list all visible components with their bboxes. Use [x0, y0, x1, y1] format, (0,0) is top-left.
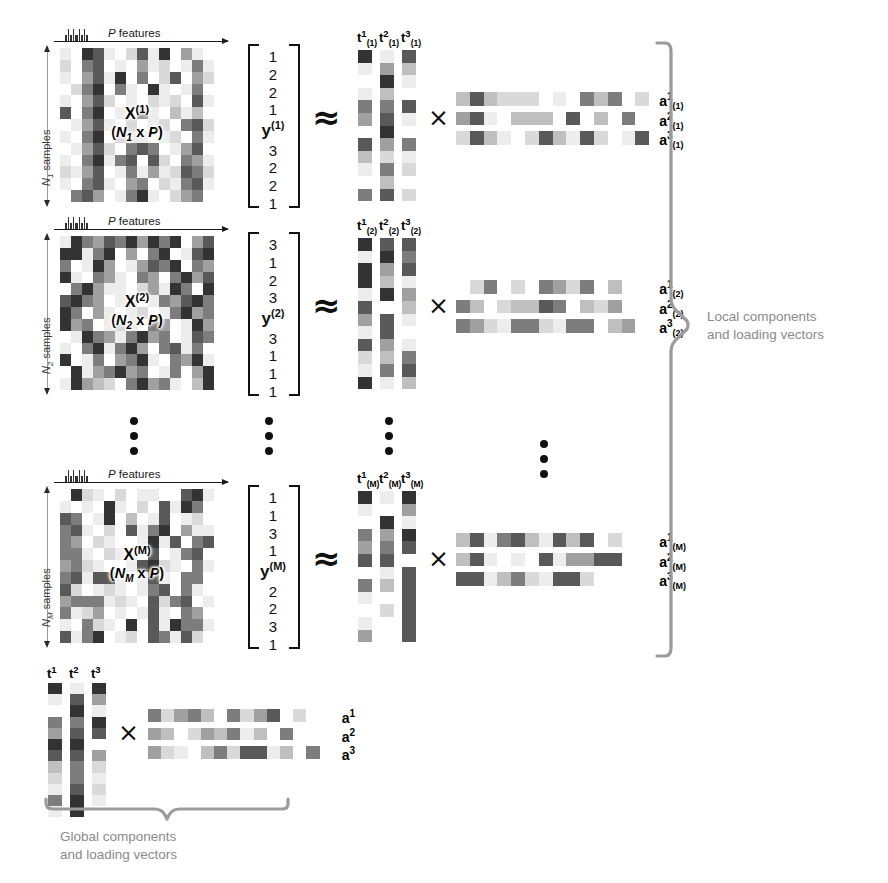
heatmap-cell — [104, 354, 115, 366]
heatmap-cell — [470, 280, 484, 294]
heatmap-cell — [137, 248, 148, 260]
heatmap-cell — [497, 280, 511, 294]
heatmap-cell — [539, 572, 553, 586]
heatmap-cell — [192, 107, 203, 119]
heatmap-cell — [192, 631, 203, 643]
block-2-y-bracket-right — [289, 232, 300, 396]
block-1-t-label-2: t2(1) — [379, 28, 399, 48]
block-1-t-column-2 — [380, 50, 394, 201]
block-m-t-column-1 — [358, 491, 372, 642]
heatmap-cell — [566, 319, 580, 333]
heatmap-cell — [402, 529, 416, 542]
heatmap-cell — [71, 607, 82, 619]
heatmap-cell — [115, 260, 126, 272]
ellipsis-dot — [540, 455, 548, 463]
heatmap-cell — [566, 553, 580, 567]
heatmap-cell — [70, 773, 84, 784]
heatmap-cell — [402, 301, 416, 314]
comb-tick — [84, 470, 86, 482]
heatmap-cell — [82, 343, 93, 355]
heatmap-cell — [539, 92, 553, 106]
heatmap-cell — [104, 489, 115, 501]
heatmap-cell — [115, 178, 126, 190]
heatmap-cell — [60, 48, 71, 60]
heatmap-cell — [566, 572, 580, 586]
heatmap-cell — [456, 553, 470, 567]
heatmap-cell — [71, 307, 82, 319]
global-a-row-2 — [148, 728, 333, 741]
heatmap-cell — [456, 533, 470, 547]
heatmap-cell — [82, 166, 93, 178]
ellipsis-y-vectors — [265, 417, 273, 455]
block-1-features-label: P features — [108, 27, 160, 39]
heatmap-cell — [192, 319, 203, 331]
heatmap-cell — [137, 143, 148, 155]
heatmap-cell — [320, 728, 333, 741]
heatmap-cell — [511, 319, 525, 333]
heatmap-cell — [159, 72, 170, 84]
heatmap-cell — [192, 248, 203, 260]
block-m-features-arrow — [54, 482, 228, 483]
block-m-samples-label: NM samples — [40, 568, 55, 627]
heatmap-cell — [525, 112, 539, 126]
heatmap-cell — [484, 533, 498, 547]
heatmap-cell — [71, 378, 82, 390]
heatmap-cell — [148, 178, 159, 190]
heatmap-cell — [148, 143, 159, 155]
heatmap-cell — [358, 326, 372, 339]
heatmap-cell — [181, 331, 192, 343]
heatmap-cell — [170, 596, 181, 608]
heatmap-cell — [553, 319, 567, 333]
heatmap-cell — [115, 596, 126, 608]
block-m-x-label: X(M)(NM x P) — [90, 544, 184, 585]
heatmap-cell — [553, 112, 567, 126]
heatmap-cell — [93, 619, 104, 631]
heatmap-cell — [104, 60, 115, 72]
heatmap-cell — [60, 84, 71, 96]
heatmap-cell — [137, 584, 148, 596]
heatmap-cell — [71, 596, 82, 608]
heatmap-cell — [60, 155, 71, 167]
heatmap-cell — [358, 604, 372, 617]
global-times-sign: × — [118, 720, 139, 745]
heatmap-cell — [93, 489, 104, 501]
block-1-y-bracket-left — [248, 44, 259, 208]
heatmap-cell — [358, 592, 372, 605]
heatmap-cell — [402, 189, 416, 202]
heatmap-cell — [635, 131, 649, 145]
heatmap-cell — [203, 378, 214, 390]
heatmap-cell — [203, 560, 214, 572]
heatmap-cell — [203, 619, 214, 631]
heatmap-cell — [104, 166, 115, 178]
heatmap-cell — [104, 501, 115, 513]
heatmap-cell — [539, 112, 553, 126]
block-2-y-value: 1 — [269, 347, 277, 364]
global-a-label-2: a2 — [342, 727, 355, 745]
heatmap-cell — [192, 572, 203, 584]
heatmap-cell — [192, 272, 203, 284]
heatmap-cell — [115, 331, 126, 343]
heatmap-cell — [104, 236, 115, 248]
heatmap-cell — [358, 541, 372, 554]
heatmap-cell — [104, 631, 115, 643]
heatmap-cell — [82, 501, 93, 513]
heatmap-cell — [622, 319, 636, 333]
heatmap-cell — [71, 295, 82, 307]
heatmap-cell — [93, 60, 104, 72]
heatmap-cell — [402, 554, 416, 567]
heatmap-cell — [240, 746, 253, 759]
heatmap-cell — [203, 119, 214, 131]
heatmap-cell — [203, 501, 214, 513]
heatmap-cell — [71, 548, 82, 560]
heatmap-cell — [148, 84, 159, 96]
heatmap-cell — [104, 366, 115, 378]
heatmap-cell — [126, 489, 137, 501]
heatmap-cell — [227, 709, 240, 722]
heatmap-cell — [148, 60, 159, 72]
block-1-y-value: 2 — [269, 84, 277, 101]
block-m-y-value: 3 — [269, 525, 277, 542]
heatmap-cell — [181, 72, 192, 84]
heatmap-cell — [497, 300, 511, 314]
heatmap-cell — [60, 501, 71, 513]
heatmap-cell — [115, 343, 126, 355]
